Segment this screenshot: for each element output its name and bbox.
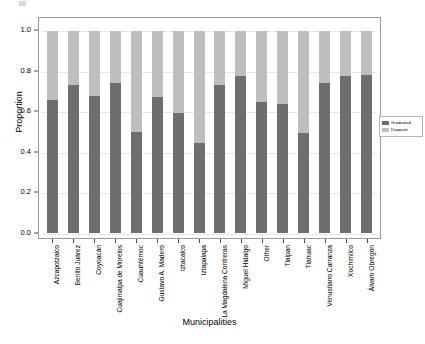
x-tick-label: Tláhuac: [306, 245, 313, 268]
x-tick-mark: [283, 239, 284, 243]
x-tick-mark: [220, 239, 221, 243]
x-tick-label: Cuauhtémoc: [138, 245, 145, 282]
bar-column[interactable]: [314, 31, 335, 233]
x-tick-label: Benito Juárez: [75, 245, 82, 285]
bar-stack: [110, 31, 121, 233]
bar-segment-graduated[interactable]: [298, 133, 309, 233]
bar-stack: [47, 31, 58, 233]
x-tick-label: Other: [264, 245, 271, 262]
bar-stack: [340, 31, 351, 233]
bar-stack: [361, 31, 372, 233]
bar-column[interactable]: [189, 31, 210, 233]
bar-stack: [194, 31, 205, 233]
y-tick-label: 0.6: [21, 107, 31, 115]
bar-column[interactable]: [210, 31, 231, 233]
x-tick-mark: [262, 239, 263, 243]
plot-area: [42, 31, 377, 233]
bar-segment-dropouts[interactable]: [89, 31, 100, 96]
bar-segment-dropouts[interactable]: [194, 31, 205, 143]
y-tick-label: 0.0: [21, 229, 31, 237]
bar-segment-graduated[interactable]: [194, 143, 205, 233]
bar-stack: [256, 31, 267, 233]
bar-column[interactable]: [168, 31, 189, 233]
bar-segment-dropouts[interactable]: [152, 31, 163, 97]
x-tick-label: Tlalpan: [285, 245, 292, 267]
x-tick-mark: [157, 239, 158, 243]
x-tick-label: Azcapotzalco: [54, 245, 61, 284]
bar-segment-graduated[interactable]: [47, 100, 58, 233]
y-tick-label: 0.2: [21, 189, 31, 197]
bar-segment-graduated[interactable]: [277, 104, 288, 233]
bar-stack: [298, 31, 309, 233]
bar-segment-dropouts[interactable]: [277, 31, 288, 104]
x-axis-labels: AzcapotzalcoBenito JuárezCoyoacánCuajima…: [38, 245, 381, 307]
bar-column[interactable]: [335, 31, 356, 233]
bar-segment-dropouts[interactable]: [214, 31, 225, 85]
y-axis-ticks: 0.00.20.40.60.81.0: [0, 17, 38, 239]
bar-segment-graduated[interactable]: [340, 76, 351, 233]
bar-stack: [277, 31, 288, 233]
x-tick-mark: [73, 239, 74, 243]
y-tick-label: 1.0: [21, 26, 31, 34]
bar-stack: [131, 31, 142, 233]
legend-label: Graduated: [391, 121, 411, 125]
x-tick-mark: [346, 239, 347, 243]
bar-segment-graduated[interactable]: [235, 76, 246, 233]
legend-entry[interactable]: Dropouts: [382, 127, 420, 133]
x-tick-label: Miguel Hidalgo: [243, 245, 250, 289]
bar-column[interactable]: [42, 31, 63, 233]
bar-segment-dropouts[interactable]: [340, 31, 351, 76]
bar-segment-graduated[interactable]: [173, 113, 184, 233]
bar-segment-graduated[interactable]: [214, 85, 225, 233]
legend-entry[interactable]: Graduated: [382, 120, 420, 126]
bar-column[interactable]: [356, 31, 377, 233]
x-tick-mark: [241, 239, 242, 243]
bar-column[interactable]: [105, 31, 126, 233]
bar-stack: [214, 31, 225, 233]
bar-segment-graduated[interactable]: [110, 83, 121, 234]
bar-segment-dropouts[interactable]: [298, 31, 309, 133]
bar-stack: [68, 31, 79, 233]
bar-column[interactable]: [84, 31, 105, 233]
bar-column[interactable]: [147, 31, 168, 233]
x-tick-label: Iztapalapa: [201, 245, 208, 275]
bar-segment-graduated[interactable]: [319, 83, 330, 234]
bar-segment-graduated[interactable]: [256, 102, 267, 233]
bar-stack: [89, 31, 100, 233]
legend-label: Dropouts: [391, 128, 408, 132]
bar-series-container: [42, 31, 377, 233]
x-tick-mark: [94, 239, 95, 243]
plot-frame: [38, 17, 381, 239]
x-tick-mark: [178, 239, 179, 243]
chart-root: Proportion 0.00.20.40.60.81.0 Azcapotzal…: [0, 0, 425, 344]
bar-column[interactable]: [251, 31, 272, 233]
bar-column[interactable]: [126, 31, 147, 233]
bar-column[interactable]: [272, 31, 293, 233]
bar-column[interactable]: [293, 31, 314, 233]
bar-segment-dropouts[interactable]: [361, 31, 372, 75]
bar-segment-graduated[interactable]: [152, 97, 163, 233]
bar-segment-dropouts[interactable]: [173, 31, 184, 113]
bar-segment-graduated[interactable]: [68, 85, 79, 233]
x-tick-mark: [136, 239, 137, 243]
bar-segment-dropouts[interactable]: [68, 31, 79, 85]
y-tick-label: 0.4: [21, 148, 31, 156]
bar-segment-dropouts[interactable]: [131, 31, 142, 132]
bar-column[interactable]: [230, 31, 251, 233]
bar-stack: [173, 31, 184, 233]
gridline: [42, 234, 377, 235]
bar-segment-graduated[interactable]: [131, 132, 142, 233]
bar-column[interactable]: [63, 31, 84, 233]
bar-segment-dropouts[interactable]: [110, 31, 121, 83]
bar-stack: [319, 31, 330, 233]
bar-segment-graduated[interactable]: [89, 96, 100, 233]
bar-segment-graduated[interactable]: [361, 75, 372, 233]
x-tick-label: Gustavo A. Madero: [159, 245, 166, 301]
bar-segment-dropouts[interactable]: [256, 31, 267, 102]
x-tick-label: Cuajimalpa de Morelos: [117, 245, 124, 312]
bar-segment-dropouts[interactable]: [47, 31, 58, 100]
x-tick-label: Xochimilco: [348, 245, 355, 277]
bar-segment-dropouts[interactable]: [235, 31, 246, 76]
x-axis-title: Municipalities: [38, 317, 381, 327]
bar-segment-dropouts[interactable]: [319, 31, 330, 83]
